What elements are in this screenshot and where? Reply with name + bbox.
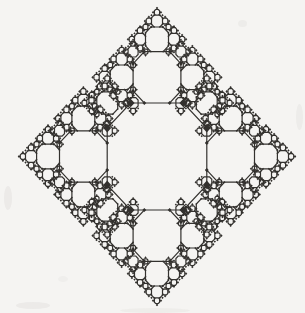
- octagon-fractal-svg: [0, 0, 305, 313]
- figure-background: [0, 0, 305, 313]
- fractal-figure: [0, 0, 305, 313]
